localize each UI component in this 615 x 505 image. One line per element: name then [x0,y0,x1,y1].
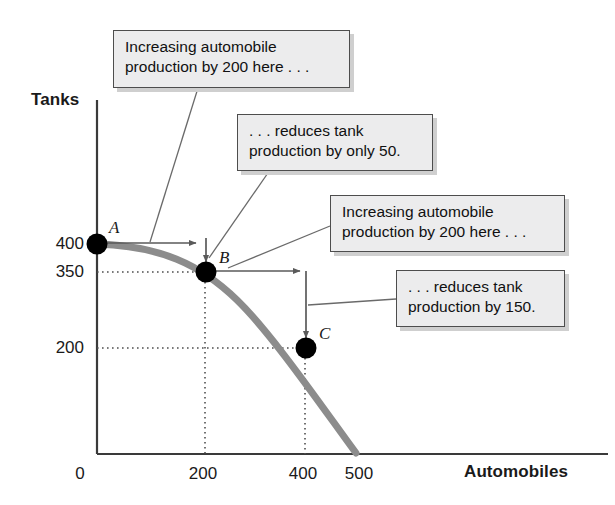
callout-reduces-tanks-150: . . . reduces tank production by 150. [396,270,565,327]
x-tick-500: 500 [329,464,389,484]
point-b [196,262,217,283]
point-a [87,234,108,255]
y-tick-200: 200 [36,338,84,358]
data-points [87,234,317,359]
point-label-b: B [219,248,229,268]
callout-increase-autos-b-to-c: Increasing automobile production by 200 … [330,195,565,252]
y-axis-title: Tanks [31,90,79,110]
x-tick-400: 400 [273,464,333,484]
point-c [296,338,317,359]
callout-increase-autos-a-to-b: Increasing automobile production by 200 … [113,30,350,88]
x-axis-title: Automobiles [464,462,568,482]
ppf-curve [97,244,356,453]
callout-reduces-tanks-50: . . . reduces tank production by only 50… [237,114,433,171]
x-tick-0: 0 [50,464,110,484]
move-arrow-b-to-c [209,271,306,338]
guide-lines [97,272,305,454]
x-tick-200: 200 [173,464,233,484]
y-tick-350: 350 [36,262,84,282]
point-label-c: C [319,324,330,344]
y-tick-400: 400 [36,234,84,254]
figure-canvas: Tanks Automobiles 400 350 200 0 200 400 … [0,0,615,505]
point-label-a: A [109,218,119,238]
